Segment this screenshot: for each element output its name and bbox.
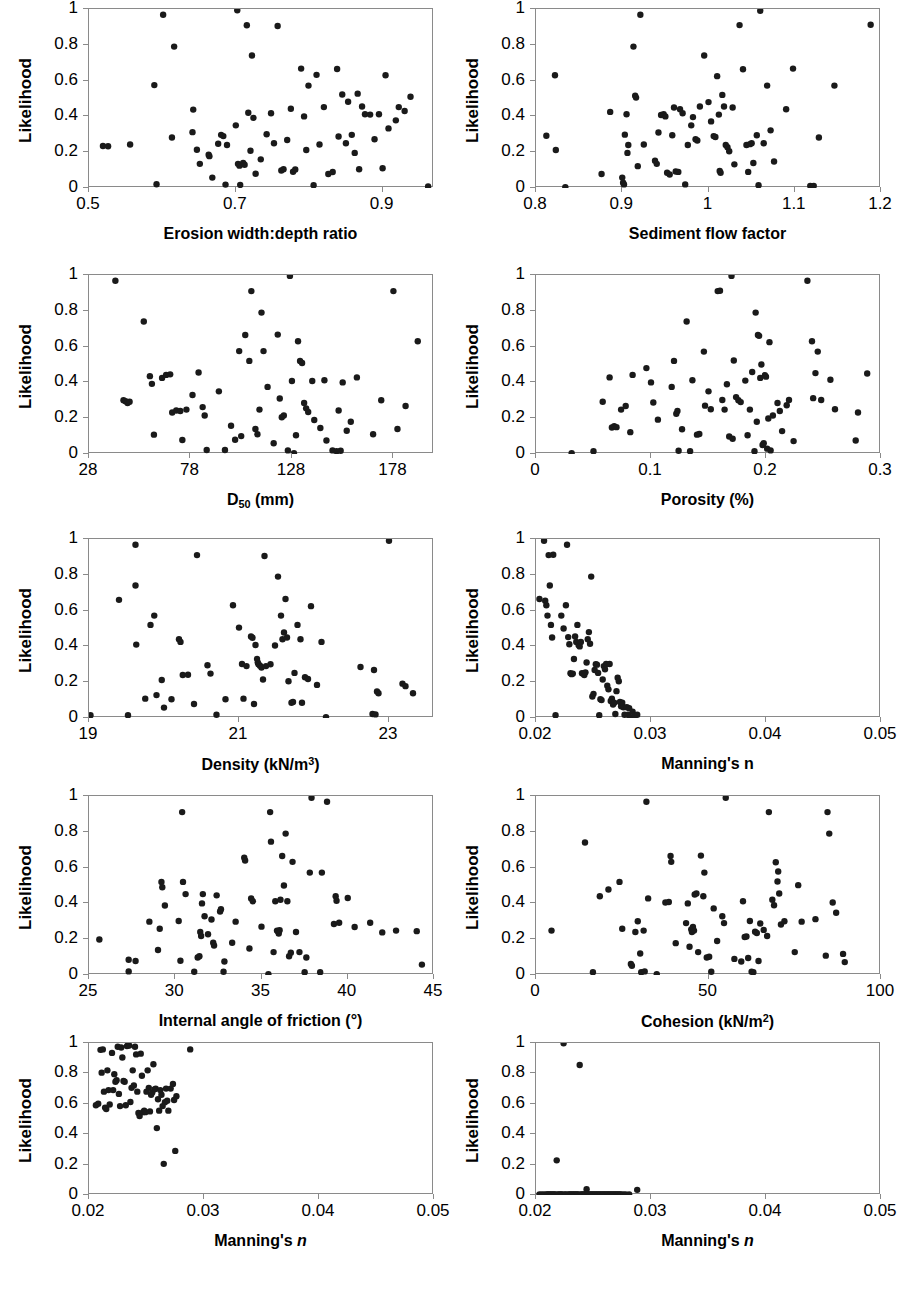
- data-point: [755, 182, 761, 188]
- y-tick-label: 0: [26, 708, 78, 725]
- data-point: [574, 622, 580, 628]
- plot-area: [88, 1042, 433, 1194]
- data-point: [115, 1044, 121, 1050]
- data-point: [590, 969, 596, 975]
- data-point: [581, 672, 587, 678]
- data-point: [324, 799, 330, 805]
- data-point: [710, 905, 716, 911]
- data-point: [116, 1091, 122, 1097]
- data-point: [629, 962, 635, 968]
- data-point: [667, 853, 673, 859]
- y-tick-label: 0.6: [473, 1094, 525, 1111]
- data-point: [714, 938, 720, 944]
- data-point: [655, 416, 661, 422]
- data-point: [143, 1088, 149, 1094]
- y-tick-label: 0.6: [473, 337, 525, 354]
- data-point: [376, 111, 382, 117]
- data-point: [757, 920, 763, 926]
- y-axis-label: Likelihood: [463, 58, 483, 143]
- data-point: [255, 659, 261, 665]
- x-tick-label: 35: [221, 982, 301, 999]
- data-point: [634, 712, 640, 718]
- data-point: [393, 927, 399, 933]
- data-point: [685, 900, 691, 906]
- data-point: [694, 137, 700, 143]
- data-point: [795, 882, 801, 888]
- y-tick-label: 0.6: [26, 71, 78, 88]
- x-tick-mark: [235, 187, 236, 192]
- data-point: [826, 830, 832, 836]
- data-point: [751, 448, 757, 454]
- data-point: [127, 141, 133, 147]
- data-point: [268, 110, 274, 116]
- data-point: [723, 142, 729, 148]
- data-point: [766, 339, 772, 345]
- data-point: [621, 712, 627, 718]
- data-point: [568, 1191, 574, 1195]
- y-tick-label: 0.4: [26, 106, 78, 123]
- data-point: [293, 929, 299, 935]
- plot-area: [535, 8, 880, 187]
- x-tick-label: 0.03: [163, 1202, 243, 1219]
- data-point: [252, 170, 258, 176]
- data-point: [194, 146, 200, 152]
- data-point: [790, 438, 796, 444]
- data-point: [362, 111, 368, 117]
- data-point: [832, 406, 838, 412]
- data-point: [719, 913, 725, 919]
- data-point: [123, 1102, 129, 1108]
- y-tick-label: 0.4: [473, 893, 525, 910]
- data-point: [696, 431, 702, 437]
- data-point: [620, 704, 626, 710]
- data-point: [146, 1085, 152, 1091]
- data-point: [575, 1191, 581, 1195]
- data-point: [761, 440, 767, 446]
- y-tick-mark: [83, 974, 88, 975]
- data-point: [98, 1069, 104, 1075]
- data-point: [196, 953, 202, 959]
- data-point: [132, 958, 138, 964]
- data-point: [547, 1191, 553, 1195]
- data-point: [635, 918, 641, 924]
- x-tick-label: 0.02: [495, 1202, 575, 1219]
- y-tick-label: 1: [26, 0, 78, 16]
- y-tick-label: 1: [473, 529, 525, 546]
- data-point: [602, 1191, 608, 1195]
- data-point: [285, 447, 291, 453]
- data-point: [141, 318, 147, 324]
- data-point: [695, 949, 701, 955]
- y-tick-mark: [83, 381, 88, 382]
- x-tick-label: 0.05: [840, 725, 901, 742]
- data-point: [297, 636, 303, 642]
- data-point: [624, 704, 630, 710]
- data-point: [654, 161, 660, 167]
- data-point: [541, 1191, 547, 1195]
- x-tick-label: 0.9: [581, 195, 661, 212]
- data-point: [618, 1191, 624, 1195]
- y-tick-mark: [83, 574, 88, 575]
- data-point: [204, 447, 210, 453]
- data-point: [588, 573, 594, 579]
- data-point: [570, 1191, 576, 1195]
- data-point: [637, 12, 643, 18]
- data-point: [613, 1191, 619, 1195]
- data-point: [153, 692, 159, 698]
- data-point: [105, 143, 111, 149]
- data-point: [182, 891, 188, 897]
- data-point: [668, 859, 674, 865]
- y-tick-mark: [530, 453, 535, 454]
- data-point: [144, 1067, 150, 1073]
- data-point: [119, 1054, 125, 1060]
- data-point: [691, 927, 697, 933]
- data-point: [693, 890, 699, 896]
- data-point: [771, 902, 777, 908]
- data-point: [578, 639, 584, 645]
- data-point: [812, 916, 818, 922]
- data-point: [180, 672, 186, 678]
- x-tick-label: 1: [668, 195, 748, 212]
- data-point: [708, 969, 714, 975]
- data-point: [827, 377, 833, 383]
- data-point: [551, 1191, 557, 1195]
- x-tick-mark: [88, 453, 89, 458]
- data-point: [597, 696, 603, 702]
